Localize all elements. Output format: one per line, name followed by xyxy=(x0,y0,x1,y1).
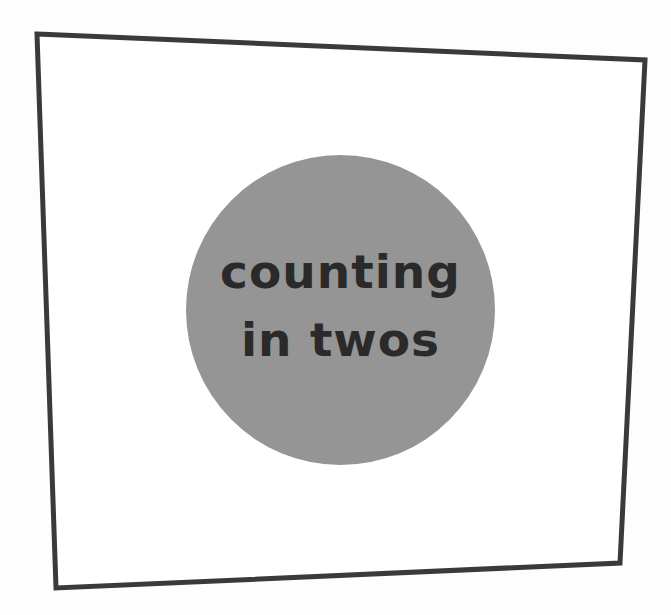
title-badge: counting in twos xyxy=(186,155,495,465)
title-line-2: in twos xyxy=(241,306,440,374)
title-line-1: counting xyxy=(220,238,461,306)
